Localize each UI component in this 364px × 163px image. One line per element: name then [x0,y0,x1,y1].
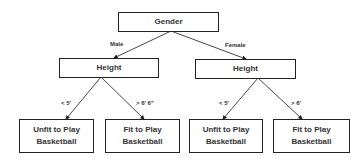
leaf-female-tall-line2: Basketball [291,136,331,148]
leaf-female-short: Unfit to Play Basketball [189,119,263,153]
leaf-male-tall-line2: Basketball [122,136,162,148]
node-height-male: Height [59,58,159,78]
edge-label-female-short: < 5' [219,100,229,106]
edge-female-short [223,78,258,119]
edge-label-male-short: < 5' [61,100,71,106]
node-gender: Gender [118,12,219,32]
leaf-female-tall-line1: Fit to Play [292,124,330,136]
leaf-male-short: Unfit to Play Basketball [19,119,94,153]
edge-label-female: Female [225,42,246,48]
edge-male-tall [101,77,144,119]
leaf-female-short-line1: Unfit to Play [203,124,250,136]
edge-label-male-tall: > 6' 6" [136,100,154,106]
node-height-female-label: Height [233,63,258,75]
leaf-female-short-line2: Basketball [206,136,246,148]
edge-label-male: Male [110,41,123,47]
edge-male-short [66,77,101,119]
node-height-female: Height [195,59,296,79]
node-gender-label: Gender [154,16,182,28]
edge-label-female-tall: > 6' [291,100,301,106]
edge-female-tall [258,78,302,119]
leaf-male-tall: Fit to Play Basketball [105,119,180,153]
node-height-male-label: Height [97,62,122,74]
leaf-male-short-line2: Basketball [36,136,76,148]
leaf-male-short-line1: Unfit to Play [33,124,80,136]
leaf-male-tall-line1: Fit to Play [123,124,161,136]
leaf-female-tall: Fit to Play Basketball [273,119,350,153]
